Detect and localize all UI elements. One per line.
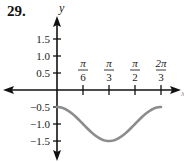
x-tick-numerator: π: [80, 57, 86, 69]
y-axis-label: y: [58, 1, 65, 15]
y-tick-label: 1.0: [36, 50, 50, 62]
x-tick-numerator: 2π: [155, 57, 167, 69]
y-tick-label: −1.5: [30, 135, 50, 147]
tick-labels: yx1.51.00.5−0.5−1.0−1.5π6π3π22π3: [30, 1, 184, 147]
y-tick-label: 0.5: [36, 67, 50, 79]
x-tick-denominator: 3: [106, 71, 112, 83]
x-tick-denominator: 3: [158, 71, 164, 83]
x-tick-numerator: π: [132, 57, 138, 69]
graph: yx1.51.00.5−0.5−1.0−1.5π6π3π22π3: [0, 0, 184, 162]
function-curve: [57, 107, 161, 141]
y-tick-label: −1.0: [30, 118, 50, 130]
x-tick-denominator: 2: [132, 71, 138, 83]
x-axis-label: x: [180, 88, 184, 98]
y-tick-label: 1.5: [36, 33, 50, 45]
x-tick-denominator: 6: [80, 71, 86, 83]
x-tick-numerator: π: [106, 57, 112, 69]
y-tick-label: −0.5: [30, 101, 50, 113]
